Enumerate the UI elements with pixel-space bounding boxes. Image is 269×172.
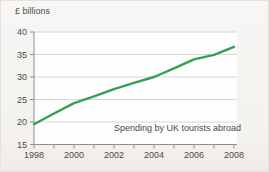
x-tick-label: 1998: [24, 150, 44, 160]
y-tick-label: 15: [17, 140, 27, 150]
y-axis-title: £ billions: [15, 6, 50, 16]
y-tick-label: 30: [17, 72, 27, 82]
line-chart: 152025303540199820002002200420062008: [1, 1, 269, 172]
y-tick-label: 35: [17, 50, 27, 60]
x-tick-label: 2000: [64, 150, 84, 160]
x-tick-label: 2004: [144, 150, 164, 160]
chart-card: £ billions 15202530354019982000200220042…: [0, 0, 269, 172]
chart-annotation: Spending by UK tourists abroad: [114, 123, 241, 133]
x-tick-label: 2002: [104, 150, 124, 160]
y-tick-label: 20: [17, 117, 27, 127]
x-tick-label: 2008: [224, 150, 244, 160]
y-tick-label: 25: [17, 95, 27, 105]
x-tick-label: 2006: [184, 150, 204, 160]
y-tick-label: 40: [17, 27, 27, 37]
